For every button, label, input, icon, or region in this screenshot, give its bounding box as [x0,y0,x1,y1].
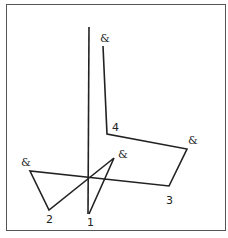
label-3: 3 [166,194,173,207]
diagram-lines [30,27,187,214]
label-amp-right: & [188,134,198,147]
diagram-labels: &4&3&2&1 [21,32,198,229]
label-1: 1 [87,216,94,229]
diagram-canvas: &4&3&2&1 [0,0,228,238]
label-amp-left: & [21,156,31,169]
label-2: 2 [46,213,53,226]
label-amp-middle: & [118,148,128,161]
vertical-axis-line [88,27,89,214]
main-path [30,46,187,214]
label-4: 4 [112,121,119,134]
label-amp-top: & [100,32,110,45]
